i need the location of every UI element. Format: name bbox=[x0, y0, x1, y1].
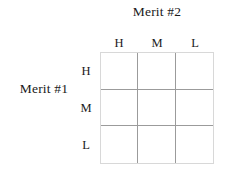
matrix-grid bbox=[100, 52, 214, 164]
matrix-cell-m-h bbox=[101, 90, 138, 127]
matrix-cell-l-m bbox=[138, 126, 175, 163]
column-header-low: L bbox=[176, 34, 214, 52]
matrix-cell-m-l bbox=[176, 90, 213, 127]
row-header-medium: M bbox=[76, 89, 96, 126]
column-header-high: H bbox=[100, 34, 138, 52]
matrix-cell-m-m bbox=[138, 90, 175, 127]
matrix-cell-h-l bbox=[176, 53, 213, 90]
merit-comparison-matrix: Merit #2 Merit #1 H M L H M L bbox=[0, 0, 227, 175]
matrix-cell-h-m bbox=[138, 53, 175, 90]
row-header-high: H bbox=[76, 52, 96, 89]
matrix-cell-l-h bbox=[101, 126, 138, 163]
matrix-cell-h-h bbox=[101, 53, 138, 90]
matrix-cell-l-l bbox=[176, 126, 213, 163]
row-axis-title: Merit #1 bbox=[8, 80, 80, 98]
column-header-medium: M bbox=[138, 34, 176, 52]
column-header-row: H M L bbox=[100, 34, 214, 52]
row-header-low: L bbox=[76, 127, 96, 164]
row-header-column: H M L bbox=[76, 52, 96, 164]
column-axis-title: Merit #2 bbox=[100, 3, 214, 21]
